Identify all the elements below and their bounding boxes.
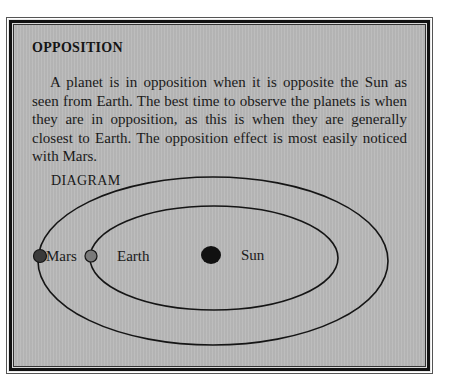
earth-dot-icon [85, 250, 97, 262]
mars-label: Mars [46, 248, 77, 264]
orbit-diagram: Mars Earth Sun [0, 0, 450, 384]
sun-label: Sun [241, 247, 265, 263]
earth-label: Earth [117, 248, 150, 264]
mars-dot-icon [34, 250, 47, 263]
sun-dot-icon [201, 246, 221, 264]
